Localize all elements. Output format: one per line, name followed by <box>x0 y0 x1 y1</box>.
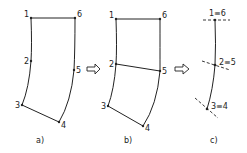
node-label: 2 <box>109 60 114 69</box>
arrow-right-icon <box>175 64 189 74</box>
panel-caption: b) <box>124 136 132 145</box>
edge-right-6-5-4 <box>143 19 160 126</box>
element-collapse-diagram: 1 2 3 4 5 6 a) 1 2 3 4 5 6 b) <box>0 0 247 153</box>
panel-a: 1 2 3 4 5 6 a) <box>15 10 82 145</box>
edge-3-4 <box>22 105 59 122</box>
node-3 <box>21 104 23 106</box>
arrow-right-icon <box>87 64 100 74</box>
node-4 <box>142 125 144 127</box>
node-3-4 <box>206 108 209 111</box>
node-2 <box>115 63 117 65</box>
edge-3-4 <box>108 106 143 126</box>
node-6 <box>74 17 76 19</box>
node-5 <box>159 70 161 72</box>
node-label: 6 <box>162 11 167 20</box>
node-1 <box>30 17 32 19</box>
node-1-6 <box>214 19 217 22</box>
node-label: 2 <box>24 57 29 66</box>
node-5 <box>73 69 75 71</box>
edge-2-5 <box>116 64 160 71</box>
node-4 <box>58 121 60 123</box>
node-label: 5 <box>162 67 167 76</box>
node-label: 3≡4 <box>211 102 228 111</box>
node-label: 2≡5 <box>219 58 236 67</box>
node-label: 6 <box>77 10 82 19</box>
node-1 <box>115 18 117 20</box>
panel-b: 1 2 3 4 5 6 b) <box>101 11 167 145</box>
node-label: 3 <box>101 102 106 111</box>
node-label: 4 <box>61 121 66 130</box>
panel-caption: a) <box>36 136 44 145</box>
panel-caption: c) <box>210 136 218 145</box>
node-3 <box>107 105 109 107</box>
node-label: 5 <box>76 66 81 75</box>
edge-right-6-5-4 <box>59 18 75 122</box>
node-2 <box>30 60 32 62</box>
node-label: 1 <box>24 10 29 19</box>
node-2-5 <box>214 64 217 67</box>
node-6 <box>159 18 161 20</box>
node-label: 4 <box>145 124 150 133</box>
panel-c: 1≡6 2≡5 3≡4 c) <box>195 9 236 145</box>
node-label: 1≡6 <box>209 9 226 18</box>
node-label: 1 <box>109 11 114 20</box>
node-label: 3 <box>15 101 20 110</box>
